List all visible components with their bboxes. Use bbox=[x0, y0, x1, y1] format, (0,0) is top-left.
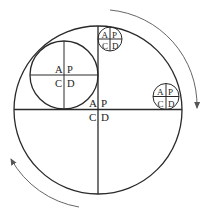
small-right-cycle: A P C D bbox=[153, 84, 179, 110]
main-label-c: C bbox=[89, 111, 96, 123]
medium-cycle: A P C D bbox=[30, 41, 98, 109]
small-top-cycle: A P C D bbox=[98, 27, 122, 51]
main-label-d: D bbox=[101, 111, 109, 123]
small-top-label-c: C bbox=[102, 41, 108, 51]
main-label-p: P bbox=[101, 97, 107, 109]
small-top-label-a: A bbox=[102, 30, 109, 40]
medium-label-d: D bbox=[67, 78, 75, 89]
medium-label-a: A bbox=[55, 64, 63, 75]
clockwise-arrow-bottom-left-icon bbox=[11, 159, 79, 207]
medium-label-c: C bbox=[55, 78, 62, 89]
small-top-label-p: P bbox=[112, 30, 117, 40]
small-right-label-c: C bbox=[158, 99, 164, 109]
main-label-a: A bbox=[89, 97, 97, 109]
small-right-label-d: D bbox=[168, 99, 175, 109]
small-top-label-d: D bbox=[112, 41, 119, 51]
small-right-label-a: A bbox=[157, 87, 164, 97]
medium-label-p: P bbox=[67, 64, 73, 75]
pdca-diagram: A P C D A P C D A P C D A P C D bbox=[0, 0, 205, 219]
small-right-label-p: P bbox=[168, 87, 173, 97]
